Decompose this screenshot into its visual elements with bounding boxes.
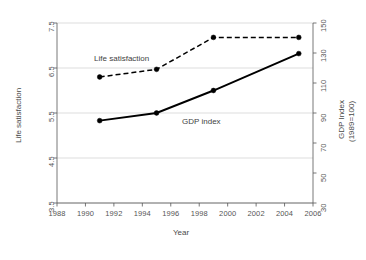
- x-tick-label: 2004: [274, 209, 296, 218]
- data-point: [296, 51, 301, 56]
- y2-tick-label: 90: [319, 113, 328, 122]
- axis-ticks: [54, 23, 317, 207]
- series-line-1: [100, 54, 299, 121]
- x-tick-label: 1994: [131, 209, 153, 218]
- x-tick-label: 1990: [74, 209, 96, 218]
- x-axis-title: Year: [173, 228, 189, 237]
- data-point: [154, 111, 159, 116]
- data-point: [97, 75, 102, 80]
- y-axis-title: Life satisfaction: [14, 88, 23, 143]
- y2-axis-title-line1: GDP Index: [337, 100, 346, 139]
- x-tick-label: 1998: [188, 209, 210, 218]
- y-tick-label: 6.5: [47, 66, 56, 77]
- chart-figure: 1988199019921994199619982000200220042006…: [0, 0, 366, 260]
- data-series-layer: [97, 35, 301, 123]
- data-point: [97, 118, 102, 123]
- chart-canvas: [0, 0, 366, 260]
- series-label-gdp-index: GDP index: [182, 117, 221, 126]
- y-tick-label: 5.5: [47, 111, 56, 122]
- y2-tick-label: 110: [319, 80, 328, 92]
- x-tick-label: 2002: [245, 209, 267, 218]
- x-tick-label: 1996: [160, 209, 182, 218]
- y-tick-label: 4.5: [47, 156, 56, 167]
- x-tick-label: 1992: [103, 209, 125, 218]
- y-tick-label: 3.5: [47, 201, 56, 212]
- data-point: [211, 35, 216, 40]
- gridlines: [57, 23, 313, 203]
- y2-tick-label: 150: [319, 19, 328, 32]
- y-tick-label: 7.5: [47, 21, 56, 32]
- series-label-life-satisfaction: Life satisfaction: [94, 54, 149, 63]
- y2-tick-label: 30: [319, 203, 328, 212]
- y2-tick-label: 130: [319, 49, 328, 62]
- data-point: [211, 88, 216, 93]
- y2-tick-label: 50: [319, 173, 328, 182]
- y2-axis-title-line2: (1989=100): [347, 101, 356, 142]
- x-tick-label: 2000: [217, 209, 239, 218]
- y2-tick-label: 70: [319, 143, 328, 152]
- data-point: [154, 67, 159, 72]
- data-point: [296, 35, 301, 40]
